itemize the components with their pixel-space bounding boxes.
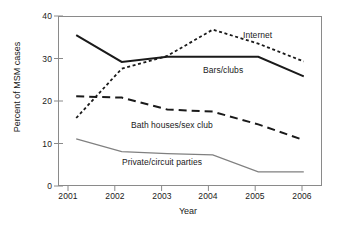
series-lines <box>76 30 304 172</box>
y-axis-title: Percent of MSM cases <box>12 27 22 147</box>
y-tick-label-30: 30 <box>30 54 52 64</box>
series-label-bath-houses-sex-club: Bath houses/sex club <box>131 120 213 130</box>
series-label-internet: Internet <box>243 30 272 40</box>
x-tick-label-2006: 2006 <box>285 191 319 201</box>
x-tick-label-2005: 2005 <box>238 191 272 201</box>
y-tick-label-40: 40 <box>30 11 52 21</box>
y-tick-label-10: 10 <box>30 139 52 149</box>
x-tick-label-2002: 2002 <box>98 191 132 201</box>
x-tick-label-2001: 2001 <box>51 191 85 201</box>
series-line-bath-houses-sex-club <box>76 96 304 140</box>
y-tick-label-0: 0 <box>30 181 52 191</box>
series-line-internet <box>76 30 304 118</box>
series-label-bars-clubs: Bars/clubs <box>203 65 243 75</box>
series-line-bars-clubs <box>76 35 304 76</box>
x-axis-title: Year <box>148 206 228 216</box>
series-label-private-circuit-parties: Private/circuit parties <box>122 157 202 167</box>
x-tick-label-2003: 2003 <box>145 191 179 201</box>
y-tick-label-20: 20 <box>30 96 52 106</box>
x-tick-label-2004: 2004 <box>191 191 225 201</box>
chart-figure: Percent of MSM cases 40 30 20 10 0 2001 … <box>0 0 338 226</box>
